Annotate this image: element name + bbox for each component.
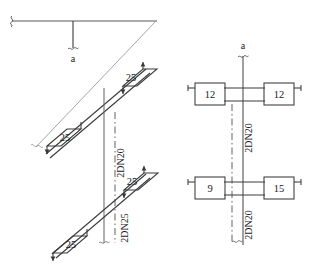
iso-branch-label-upper-left: 25 — [60, 132, 71, 143]
iso-branch-label-upper-right: 25 — [126, 72, 137, 83]
plan-section-marker-a: a — [241, 40, 246, 51]
iso-branch-upper-right: 25 — [121, 62, 157, 94]
plan-lower-right-box-label: 15 — [274, 183, 285, 194]
iso-top-left-break-icon — [11, 16, 13, 27]
iso-branch-label-lower-right: 25 — [127, 176, 138, 187]
plan-upper-right-box-label: 12 — [274, 89, 285, 100]
iso-branch-lower-left-arrow — [51, 256, 56, 261]
iso-branch-label-lower-left: 25 — [66, 239, 77, 250]
iso-construction-diagonal — [36, 21, 156, 147]
plan-riser-bottom-break-icon — [232, 241, 243, 243]
iso-branch-lower-right-arrow — [142, 166, 147, 171]
plan-lower-pipe-label-2dn20: 2DN20 — [243, 210, 254, 239]
iso-section-marker-a: a — [71, 53, 76, 64]
plan-lower-row: 9 15 — [188, 177, 301, 199]
iso-view-group: a 25 25 — [11, 16, 158, 261]
plan-lower-left-box-label: 9 — [207, 183, 212, 194]
drawing-canvas: a 25 25 — [0, 0, 309, 266]
iso-branch-upper-right-arrow-lower — [121, 89, 126, 94]
iso-pipe-label-2dn25: 2DN25 — [119, 213, 130, 242]
plan-upper-pipe-label-2dn20: 2DN20 — [243, 123, 254, 152]
iso-pipe-label-2dn20: 2DN20 — [115, 148, 126, 177]
iso-branch-lower-right-arrow-lower — [122, 193, 127, 198]
iso-branch-lower-right: 25 — [122, 166, 158, 198]
iso-branch-upper-left: 25 — [45, 122, 81, 154]
iso-construction-break-icon — [31, 145, 43, 148]
technical-drawing-svg: a 25 25 — [0, 0, 309, 266]
plan-view-group: a 12 12 — [188, 40, 301, 245]
plan-upper-row: 12 12 — [188, 83, 301, 105]
iso-branch-upper-right-arrow — [141, 62, 146, 67]
iso-branch-lower-left: 25 — [51, 229, 87, 261]
plan-upper-left-box-label: 12 — [205, 89, 216, 100]
